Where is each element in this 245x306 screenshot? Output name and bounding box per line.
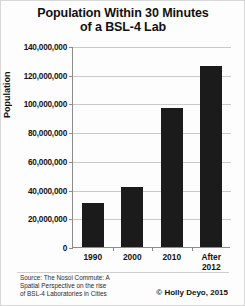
y-axis-tick-mark xyxy=(69,133,73,134)
copyright-notice: © Holly Deyo, 2015 xyxy=(156,288,228,297)
y-axis-tick-mark xyxy=(69,191,73,192)
source-line-3: of BSL-4 Laboratories in Cities xyxy=(20,290,145,298)
chart-figure: Population Within 30 Minutes of a BSL-4 … xyxy=(0,0,245,306)
y-axis-tick-label: 120,000,000 xyxy=(24,71,67,80)
x-axis-tick-label: 2000 xyxy=(123,253,142,263)
plot-area: 020,000,00040,000,00060,000,00080,000,00… xyxy=(72,47,230,248)
gridline xyxy=(73,47,231,48)
bar xyxy=(200,66,222,247)
x-axis-tick-label: After2012 xyxy=(201,253,221,272)
y-axis-tick-label: 140,000,000 xyxy=(24,43,67,52)
y-axis-tick-label: 40,000,000 xyxy=(28,186,67,195)
x-axis-tick-mark xyxy=(113,247,114,251)
x-axis-tick-mark xyxy=(192,247,193,251)
source-line-2: Spatial Perspective on the rise xyxy=(20,282,145,290)
x-axis-label-line: 2000 xyxy=(123,253,142,263)
y-axis-tick-mark xyxy=(69,248,73,249)
y-axis-title: Population xyxy=(2,72,12,119)
y-axis-tick-label: 60,000,000 xyxy=(28,157,67,166)
source-note: Source: The Nosoi Commute: A Spatial Per… xyxy=(20,274,145,298)
y-axis-tick-mark xyxy=(69,162,73,163)
bar xyxy=(161,108,183,247)
x-axis-tick-label: 2010 xyxy=(162,253,181,263)
chart-title: Population Within 30 Minutes of a BSL-4 … xyxy=(18,6,228,34)
footer-divider xyxy=(17,272,229,273)
x-axis-tick-mark xyxy=(152,247,153,251)
y-axis-tick-mark xyxy=(69,47,73,48)
x-axis-label-line: 1990 xyxy=(83,253,102,263)
x-axis-label-line: 2010 xyxy=(162,253,181,263)
bar xyxy=(82,203,104,248)
page-edge-right xyxy=(244,0,245,306)
page-edge-left xyxy=(0,0,1,306)
chart-title-line-2: of a BSL-4 Lab xyxy=(18,20,228,34)
x-axis-label-line: 2012 xyxy=(201,263,221,273)
y-axis-tick-label: 0 xyxy=(63,244,67,253)
bar xyxy=(121,187,143,247)
y-axis-tick-label: 80,000,000 xyxy=(28,129,67,138)
source-line-1: Source: The Nosoi Commute: A xyxy=(20,274,145,282)
y-axis-tick-mark xyxy=(69,104,73,105)
y-axis-tick-mark xyxy=(69,219,73,220)
y-axis-tick-label: 20,000,000 xyxy=(28,215,67,224)
page-edge-top xyxy=(0,0,245,1)
chart-title-line-1: Population Within 30 Minutes xyxy=(37,6,208,20)
x-axis-tick-label: 1990 xyxy=(83,253,102,263)
y-axis-tick-label: 100,000,000 xyxy=(24,100,67,109)
y-axis-tick-mark xyxy=(69,76,73,77)
